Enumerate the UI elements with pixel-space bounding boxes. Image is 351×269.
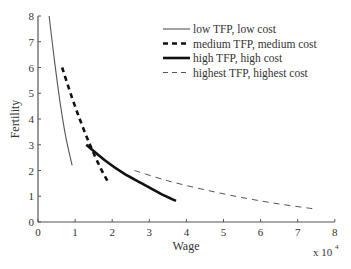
x-tick-label: 3 [147,226,153,238]
x-tick-label: 1 [72,226,78,238]
x-multiplier-label: x 10 [313,246,333,258]
x-tick-label: 2 [109,226,115,238]
x-tick-label: 5 [221,226,227,238]
chart: 012345678012345678 low TFP, low costmedi… [0,0,351,269]
y-tick-label: 0 [29,216,35,228]
x-axis-title: Wage [172,239,199,253]
legend-label: high TFP, high cost [193,52,283,65]
legend-label: low TFP, low cost [193,23,277,36]
y-axis-title: Fertility [8,100,22,139]
x-tick-label: 0 [35,226,41,238]
y-tick-label: 4 [29,113,35,125]
y-tick-label: 2 [29,165,35,177]
x-tick-label: 7 [295,226,301,238]
y-tick-label: 5 [29,87,35,99]
x-tick-label: 4 [184,226,190,238]
y-tick-label: 3 [29,139,35,151]
x-tick-label: 8 [332,226,338,238]
y-tick-label: 8 [29,10,35,22]
y-tick-label: 1 [29,190,35,202]
series-line-2 [62,68,107,181]
y-tick-label: 7 [29,36,35,48]
series-line-4 [134,171,316,210]
legend-label: highest TFP, highest cost [193,67,309,80]
y-tick-label: 6 [29,62,35,74]
legend-label: medium TFP, medium cost [193,38,318,51]
legend: low TFP, low costmedium TFP, medium cost… [163,23,318,80]
series-line-3 [86,145,176,201]
x-tick-label: 6 [258,226,264,238]
series-line-1 [49,16,72,165]
x-multiplier-exponent: 4 [335,243,339,251]
